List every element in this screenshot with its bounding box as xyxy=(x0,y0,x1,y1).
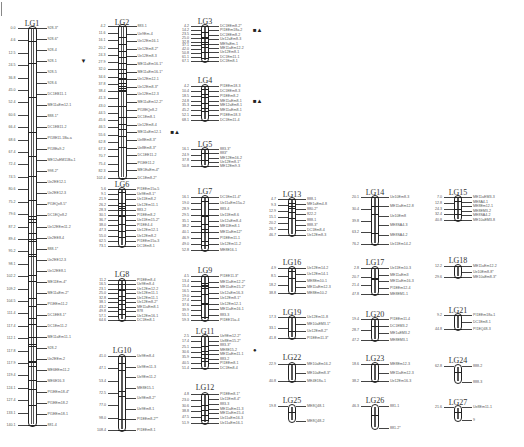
position-label: 16.1 xyxy=(171,147,189,151)
position-tick xyxy=(108,91,118,92)
marker-band xyxy=(201,250,209,251)
marker-band xyxy=(28,241,37,242)
position-label: 33.1 xyxy=(258,326,276,330)
position-label: 51.9 xyxy=(171,421,189,425)
position-tick xyxy=(108,142,118,143)
position-tick xyxy=(108,55,118,56)
marker-tick xyxy=(126,230,136,231)
chromosome-bar xyxy=(118,187,126,248)
marker-tick xyxy=(209,101,219,102)
marker-band xyxy=(454,329,462,330)
position-tick xyxy=(108,430,118,431)
position-tick xyxy=(361,294,371,295)
marker-tick xyxy=(209,110,219,111)
position-label: 30.1 xyxy=(88,213,106,217)
position-tick xyxy=(191,347,201,348)
marker-band xyxy=(201,368,209,369)
position-tick xyxy=(444,407,454,408)
position-label: 102.2 xyxy=(0,274,16,278)
position-tick xyxy=(191,341,201,342)
marker-tick xyxy=(462,272,472,273)
marker-band xyxy=(118,63,127,64)
position-label: 59.3 xyxy=(171,318,189,322)
marker-tick xyxy=(462,366,472,367)
marker-band xyxy=(201,303,209,304)
marker-band xyxy=(28,132,37,133)
position-tick xyxy=(108,194,118,195)
marker-band xyxy=(371,364,379,365)
marker-band xyxy=(28,28,37,29)
marker-tick xyxy=(37,271,47,272)
marker-tick xyxy=(127,49,137,50)
marker-band xyxy=(201,44,209,45)
marker-tick xyxy=(462,220,472,221)
chromosome-bar xyxy=(454,405,462,422)
marker-label: 888-1* xyxy=(48,114,59,118)
marker-tick xyxy=(37,182,47,183)
marker-band xyxy=(118,309,126,310)
marker-tick xyxy=(37,50,47,51)
position-tick xyxy=(191,120,201,121)
marker-band xyxy=(288,199,296,200)
marker-label: DC1Em11-4* xyxy=(220,195,241,199)
position-tick xyxy=(108,26,118,27)
marker-tick xyxy=(126,302,136,303)
qtl-annotation-icon: ● xyxy=(253,347,257,353)
marker-label: ME12aEm8-1 xyxy=(220,103,242,107)
marker-band xyxy=(371,214,379,215)
position-label: 13.4 xyxy=(171,279,189,283)
marker-tick xyxy=(209,149,219,150)
marker-tick xyxy=(379,294,389,295)
marker-tick xyxy=(127,64,137,65)
marker-label: DC1EE11-2 xyxy=(138,153,157,157)
marker-label: Ue12aEm8-4 xyxy=(220,219,241,223)
position-label: 38.4 xyxy=(88,89,106,93)
marker-tick xyxy=(126,241,136,242)
marker-band xyxy=(118,356,126,357)
position-tick xyxy=(444,203,454,204)
marker-tick xyxy=(37,215,47,216)
marker-tick xyxy=(296,381,306,382)
marker-label: PI1EEm15a-3 xyxy=(137,239,159,243)
marker-band xyxy=(201,201,209,202)
marker-tick xyxy=(37,116,47,117)
marker-label: ME4E18a-1 xyxy=(307,379,326,383)
marker-label: ME10aEm8-3* xyxy=(307,371,330,375)
marker-band xyxy=(288,212,296,213)
position-label: 9.3 xyxy=(258,203,276,207)
position-label: 38.2 xyxy=(171,224,189,228)
position-tick xyxy=(191,417,201,418)
position-tick xyxy=(191,291,201,292)
chromosome-bar xyxy=(371,195,379,246)
marker-tick xyxy=(37,304,47,305)
marker-label: Ue9Em8-1 xyxy=(137,407,154,411)
position-tick xyxy=(278,229,288,230)
marker-label: Ue10Em8-3 xyxy=(390,195,409,199)
marker-band xyxy=(201,26,209,27)
marker-band xyxy=(201,286,209,287)
marker-tick xyxy=(296,235,306,236)
position-label: 98.0 xyxy=(88,416,106,420)
position-label: 108.4 xyxy=(88,428,106,432)
chromosome-bar xyxy=(201,334,209,370)
marker-tick xyxy=(209,96,219,97)
position-label: 30.4 xyxy=(341,207,359,211)
marker-tick xyxy=(127,140,137,141)
marker-label: DC1EE8-1* xyxy=(48,313,67,317)
position-tick xyxy=(444,315,454,316)
position-tick xyxy=(18,214,28,215)
marker-tick xyxy=(462,407,472,408)
marker-label: ME11aEm11-1 xyxy=(48,335,71,339)
marker-band xyxy=(118,91,127,92)
marker-label: ME11aEm12-3 xyxy=(390,371,414,375)
position-label: 75.2 xyxy=(0,200,16,204)
marker-band xyxy=(118,210,126,211)
qtl-annotation-icon: ▼ xyxy=(81,58,87,64)
marker-tick xyxy=(296,204,306,205)
marker-tick xyxy=(209,166,219,167)
position-tick xyxy=(108,311,118,312)
marker-label: 928-1 xyxy=(48,59,57,63)
marker-label: Ue11Em15-2* xyxy=(137,218,159,222)
marker-tick xyxy=(126,236,136,237)
position-label: 38.8 xyxy=(258,291,276,295)
